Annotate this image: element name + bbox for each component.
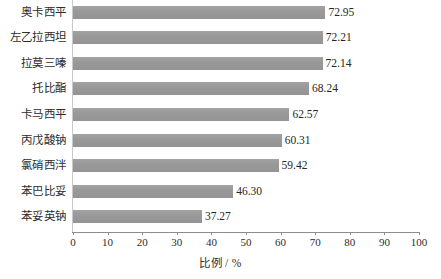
- y-axis-line: [72, 0, 73, 232]
- bar-value-label: 68.24: [312, 82, 338, 95]
- x-tick-mark: [246, 232, 247, 235]
- x-tick-mark: [350, 232, 351, 235]
- category-label: 氯硝西泮: [0, 159, 66, 172]
- x-tick-label: 0: [58, 236, 88, 249]
- category-label: 拉莫三嗪: [0, 57, 66, 70]
- x-tick-mark: [142, 232, 143, 235]
- category-label: 奥卡西平: [0, 6, 66, 19]
- x-tick-mark: [281, 232, 282, 235]
- bar: [73, 57, 323, 70]
- x-tick-label: 30: [162, 236, 192, 249]
- bar: [73, 108, 289, 121]
- bar: [73, 210, 202, 223]
- x-tick-label: 90: [369, 236, 399, 249]
- bar: [73, 134, 282, 147]
- bar-value-label: 62.57: [292, 108, 318, 121]
- category-axis: 奥卡西平左乙拉西坦拉莫三嗪托比酯卡马西平丙戊酸钠氯硝西泮苯巴比妥苯妥英钠: [0, 0, 69, 232]
- category-label: 左乙拉西坦: [0, 31, 66, 44]
- x-axis-title: 比例 / %: [0, 254, 441, 270]
- bar: [73, 82, 309, 95]
- category-label: 卡马西平: [0, 108, 66, 121]
- bar-value-label: 72.21: [326, 31, 352, 44]
- bar-value-label: 46.30: [236, 185, 262, 198]
- bar: [73, 6, 325, 19]
- bar-value-label: 72.14: [326, 57, 352, 70]
- category-label: 苯巴比妥: [0, 185, 66, 198]
- category-label: 苯妥英钠: [0, 210, 66, 223]
- x-tick-mark: [315, 232, 316, 235]
- x-tick-label: 40: [196, 236, 226, 249]
- bar: [73, 185, 233, 198]
- bar-value-label: 59.42: [282, 159, 308, 172]
- bar-value-label: 37.27: [205, 210, 231, 223]
- x-tick-label: 10: [93, 236, 123, 249]
- x-tick-mark: [419, 232, 420, 235]
- x-tick-mark: [108, 232, 109, 235]
- plot-area: 72.9572.2172.1468.2462.5760.3159.4246.30…: [73, 0, 419, 232]
- category-label: 丙戊酸钠: [0, 134, 66, 147]
- bar: [73, 159, 279, 172]
- x-tick-label: 80: [335, 236, 365, 249]
- bar-chart: 奥卡西平左乙拉西坦拉莫三嗪托比酯卡马西平丙戊酸钠氯硝西泮苯巴比妥苯妥英钠 72.…: [0, 0, 441, 279]
- x-tick-label: 70: [300, 236, 330, 249]
- x-tick-mark: [211, 232, 212, 235]
- bar-value-label: 60.31: [285, 134, 311, 147]
- x-tick-label: 20: [127, 236, 157, 249]
- x-tick-label: 60: [266, 236, 296, 249]
- category-label: 托比酯: [0, 82, 66, 95]
- bar: [73, 31, 323, 44]
- x-tick-label: 100: [404, 236, 434, 249]
- x-tick-mark: [177, 232, 178, 235]
- bar-value-label: 72.95: [328, 6, 354, 19]
- x-tick-label: 50: [231, 236, 261, 249]
- x-tick-mark: [73, 232, 74, 235]
- x-tick-mark: [384, 232, 385, 235]
